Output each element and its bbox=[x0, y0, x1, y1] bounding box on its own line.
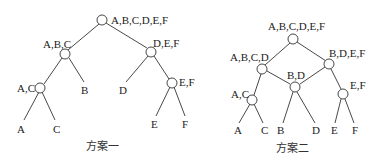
leaf-b: B bbox=[277, 124, 284, 136]
label-bdef: B,D,E,F bbox=[329, 47, 365, 59]
label-ac: A,C bbox=[231, 88, 249, 100]
edge-def-d bbox=[126, 56, 148, 82]
leaf-e: E bbox=[331, 124, 338, 136]
node-ac bbox=[35, 83, 45, 93]
edge-ac-a bbox=[24, 92, 39, 120]
leaf-a: A bbox=[234, 124, 242, 136]
label-abc: A,B,C bbox=[43, 38, 71, 50]
edge-ac-c bbox=[254, 104, 263, 123]
diagram-canvas: A,B,C,D,E,F A,B,C D,E,F A,C E,F A C B D … bbox=[0, 0, 378, 162]
leaf-f: F bbox=[352, 124, 358, 136]
tree-scheme-2: A,B,C,D,E,F A,B,C,D B,D,E,F B,D A,C E,F … bbox=[230, 20, 366, 155]
leaf-d: D bbox=[312, 124, 320, 136]
label-ef: E,F bbox=[350, 79, 366, 91]
label-def: D,E,F bbox=[153, 37, 179, 49]
label-root: A,B,C,D,E,F bbox=[268, 20, 325, 32]
label-ac: A,C bbox=[17, 82, 35, 94]
label-abcd: A,B,C,D bbox=[230, 51, 269, 63]
edge-abcd-ac bbox=[254, 74, 261, 95]
edge-ac-a bbox=[239, 104, 250, 123]
edge-bd-d bbox=[297, 92, 315, 123]
node-ef bbox=[338, 89, 348, 99]
edge-ef-e bbox=[335, 99, 341, 123]
leaf-b: B bbox=[81, 84, 88, 96]
caption-scheme-2: 方案二 bbox=[276, 141, 309, 155]
edge-bd-b bbox=[283, 92, 293, 123]
edge-ef-f bbox=[174, 87, 185, 116]
label-bd: B,D bbox=[287, 69, 305, 81]
edge-bdef-ef bbox=[331, 69, 341, 89]
edge-root-abc bbox=[68, 24, 99, 50]
label-ef: E,F bbox=[179, 76, 195, 88]
label-root: A,B,C,D,E,F bbox=[111, 14, 168, 26]
leaf-f: F bbox=[182, 118, 188, 130]
node-abcd bbox=[257, 64, 267, 74]
edge-ef-f bbox=[345, 99, 354, 123]
node-root bbox=[288, 34, 298, 44]
edge-def-ef bbox=[154, 56, 169, 79]
leaf-a: A bbox=[17, 123, 25, 135]
node-bdef bbox=[324, 59, 334, 69]
edge-ef-e bbox=[156, 87, 170, 116]
caption-scheme-1: 方案一 bbox=[86, 139, 119, 153]
edge-root-bdef bbox=[297, 42, 326, 61]
leaf-c: C bbox=[53, 123, 60, 135]
leaf-c: C bbox=[261, 124, 268, 136]
node-root bbox=[97, 15, 107, 25]
leaf-e: E bbox=[151, 118, 158, 130]
edge-abc-b bbox=[69, 58, 84, 82]
node-bd bbox=[290, 82, 300, 92]
tree-scheme-1: A,B,C,D,E,F A,B,C D,E,F A,C E,F A C B D … bbox=[17, 14, 195, 153]
edge-abc-ac bbox=[44, 58, 62, 84]
edge-ac-c bbox=[42, 92, 55, 120]
node-ef bbox=[167, 78, 177, 88]
leaf-d: D bbox=[119, 84, 127, 96]
node-abc bbox=[60, 49, 70, 59]
edge-root-def bbox=[106, 23, 147, 48]
